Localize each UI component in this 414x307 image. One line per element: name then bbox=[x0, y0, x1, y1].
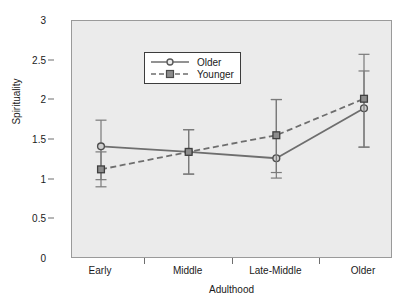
legend-label-older: Older bbox=[197, 57, 221, 68]
chart-legend: Older Younger bbox=[144, 52, 241, 84]
y-tick-label: 2 bbox=[40, 94, 46, 105]
y-tick-label: 3 bbox=[40, 15, 46, 26]
y-tick-label: 2.5 bbox=[32, 54, 46, 65]
legend-item-younger: Younger bbox=[150, 68, 234, 80]
y-tick-label: 1 bbox=[40, 173, 46, 184]
y-tick-label: 0 bbox=[40, 253, 46, 264]
legend-line-dashed-square-icon bbox=[150, 68, 190, 80]
x-axis-title: Adulthood bbox=[71, 284, 392, 295]
x-tick-mark bbox=[232, 258, 233, 264]
data-point-square bbox=[185, 149, 192, 156]
y-axis: Spirituality 00.511.522.53 bbox=[0, 0, 71, 278]
x-tick-mark bbox=[144, 258, 145, 264]
x-tick-label: Middle bbox=[173, 265, 202, 276]
y-tick-mark bbox=[48, 139, 54, 140]
y-tick-label: 0.5 bbox=[32, 213, 46, 224]
y-tick-mark bbox=[48, 99, 54, 100]
y-tick-label: 1.5 bbox=[32, 134, 46, 145]
x-tick-label: Early bbox=[89, 265, 112, 276]
y-tick-mark bbox=[48, 178, 54, 179]
x-tick-label: Late-Middle bbox=[249, 265, 301, 276]
data-point-square bbox=[273, 132, 280, 139]
spirituality-by-adulthood-chart: Spirituality 00.511.522.53 Older Younger bbox=[0, 0, 414, 307]
data-point-square bbox=[98, 166, 105, 173]
data-point-square bbox=[361, 95, 368, 102]
legend-item-older: Older bbox=[150, 56, 234, 68]
y-axis-title: Spirituality bbox=[11, 42, 22, 162]
series-line bbox=[101, 99, 364, 170]
legend-label-younger: Younger bbox=[197, 69, 234, 80]
data-point-circle bbox=[98, 143, 105, 150]
y-tick-mark bbox=[48, 218, 54, 219]
legend-line-solid-circle-icon bbox=[150, 56, 190, 68]
y-tick-mark bbox=[48, 59, 54, 60]
plot-area: Older Younger bbox=[71, 20, 392, 258]
x-tick-label: Older bbox=[351, 265, 375, 276]
x-tick-mark bbox=[319, 258, 320, 264]
